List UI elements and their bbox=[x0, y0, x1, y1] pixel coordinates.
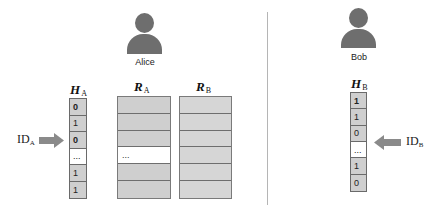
h-a-cell: 1 bbox=[70, 165, 86, 182]
alice-body bbox=[127, 34, 162, 54]
h-b-title: HB bbox=[351, 76, 367, 92]
h-b-cell: 1 bbox=[351, 109, 366, 125]
r-a-cell bbox=[118, 131, 170, 148]
r-a-cell bbox=[118, 114, 170, 131]
h-a-cell: ... bbox=[70, 149, 86, 166]
h-a-cell: 1 bbox=[70, 116, 86, 133]
r-b-cell bbox=[180, 181, 231, 198]
h-b-cell: 1 bbox=[351, 158, 366, 174]
h-a-title: HA bbox=[70, 82, 87, 98]
r-b-cell bbox=[180, 147, 231, 164]
r-a-column: ... bbox=[117, 96, 171, 199]
party-divider bbox=[267, 12, 268, 205]
h-a-cell: 0 bbox=[70, 99, 86, 116]
h-b-cell: 0 bbox=[351, 126, 366, 142]
h-a-cell: 0 bbox=[70, 132, 86, 149]
arrow-left-icon bbox=[374, 135, 402, 150]
r-a-cell bbox=[118, 181, 170, 198]
arrow-right-icon bbox=[39, 133, 65, 148]
r-b-column bbox=[179, 96, 232, 199]
id-b-label: IDB bbox=[406, 134, 423, 149]
alice-label: Alice bbox=[120, 57, 170, 67]
h-a-column: 010...11 bbox=[69, 98, 87, 199]
r-a-cell bbox=[118, 97, 170, 114]
h-b-cell: 0 bbox=[351, 175, 366, 191]
bob-label: Bob bbox=[334, 52, 384, 62]
r-b-cell bbox=[180, 97, 231, 114]
h-a-cell: 1 bbox=[70, 182, 86, 199]
r-a-cell: ... bbox=[118, 147, 170, 164]
h-b-column: 110...10 bbox=[350, 92, 367, 192]
r-b-cell bbox=[180, 114, 231, 131]
bob-body bbox=[341, 29, 376, 48]
h-b-cell: ... bbox=[351, 142, 366, 158]
bob-head bbox=[349, 8, 368, 28]
id-a-label: IDA bbox=[17, 132, 35, 147]
r-b-cell bbox=[180, 164, 231, 181]
r-b-cell bbox=[180, 131, 231, 148]
r-a-cell bbox=[118, 164, 170, 181]
h-b-cell: 1 bbox=[351, 93, 366, 109]
r-b-title: RB bbox=[196, 79, 211, 95]
r-a-title: RA bbox=[134, 79, 149, 95]
alice-head bbox=[135, 13, 154, 33]
